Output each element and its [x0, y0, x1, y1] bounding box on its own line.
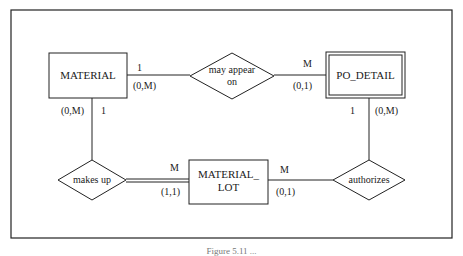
relationship-may-appear-on-label-line1: may appear — [190, 64, 274, 75]
participation-po-detail-authorizes: (0,M) — [375, 105, 398, 116]
participation-material-may-appear-on: (0,M) — [133, 80, 156, 91]
cardinality-material-lot-makes-up: M — [170, 162, 179, 173]
figure-caption: Figure 5.11 ... — [0, 246, 463, 256]
cardinality-material-may-appear-on: 1 — [137, 62, 142, 73]
relationship-may-appear-on-label-line2: on — [190, 76, 274, 87]
relationship-authorizes-label: authorizes — [333, 174, 405, 185]
entity-material-lot-label-line2: LOT — [189, 181, 268, 194]
participation-po-detail-may-appear-on: (0,1) — [293, 80, 312, 91]
cardinality-po-detail-may-appear-on: M — [303, 58, 312, 69]
cardinality-material-lot-authorizes: M — [280, 164, 289, 175]
participation-material-lot-authorizes: (0,1) — [276, 186, 295, 197]
entity-material-label: MATERIAL — [49, 69, 127, 82]
entity-po-detail-label: PO_DETAIL — [326, 69, 405, 82]
cardinality-material-makes-up: 1 — [101, 105, 106, 116]
participation-material-lot-makes-up: (1,1) — [161, 186, 180, 197]
participation-material-makes-up: (0,M) — [61, 105, 84, 116]
cardinality-po-detail-authorizes: 1 — [350, 105, 355, 116]
relationship-makes-up-label: makes up — [58, 174, 126, 185]
entity-material-lot-label-line1: MATERIAL_ — [189, 168, 268, 181]
